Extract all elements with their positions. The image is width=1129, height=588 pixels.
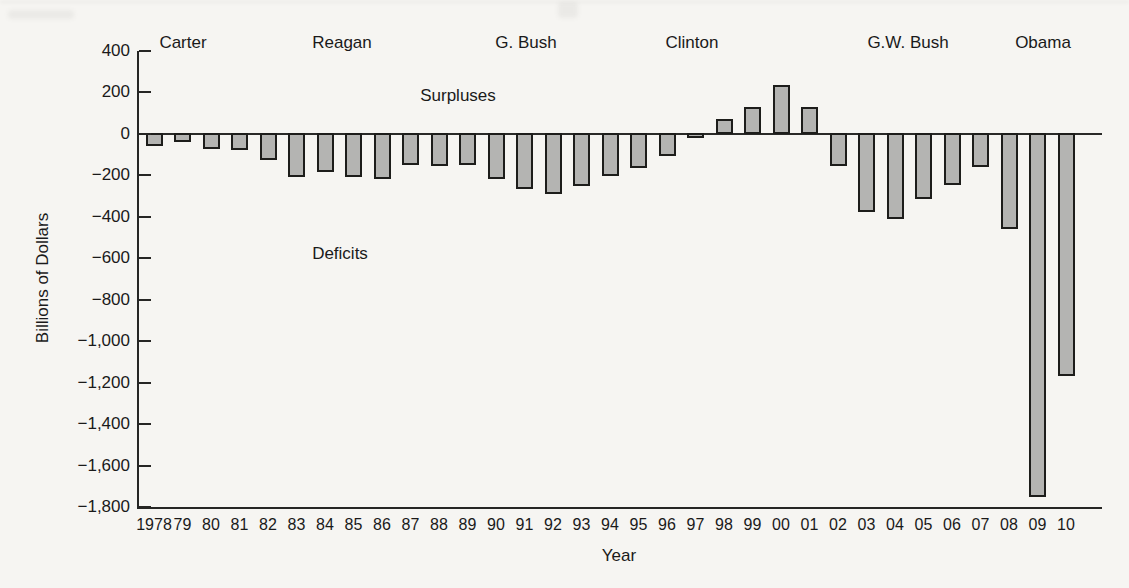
y-tick [139,257,151,259]
y-tick-label: 400 [38,41,130,61]
bar-1982 [260,133,277,161]
bar-1998 [716,119,733,134]
deficits-annotation: Deficits [312,244,368,264]
y-tick-label: −800 [38,290,130,310]
y-tick-label: 0 [38,124,130,144]
y-tick [139,133,151,135]
y-tick-label: −1,600 [38,456,130,476]
bar-chart: Billions of Dollars 4002000−200−400−600−… [0,0,1129,588]
y-tick-label: −1,000 [38,331,130,351]
bar-1990 [488,133,505,180]
y-tick [139,423,151,425]
y-tick-label: 200 [38,82,130,102]
bar-1996 [659,133,676,156]
bar-1986 [374,133,391,180]
bar-1994 [602,133,619,176]
bar-1984 [317,133,334,172]
y-tick [139,50,151,52]
bar-2000 [773,85,790,135]
surpluses-annotation: Surpluses [420,86,496,106]
era-label-carter: Carter [159,33,206,53]
x-tick-label: 10 [1043,516,1089,534]
bar-2006 [944,133,961,185]
bar-1981 [231,133,248,150]
bar-1995 [630,133,647,168]
y-tick [139,91,151,93]
y-tick [139,340,151,342]
bar-2009 [1029,133,1046,498]
bar-2003 [858,133,875,212]
bar-1992 [545,133,562,194]
y-tick [139,465,151,467]
y-tick-label: −400 [38,207,130,227]
y-tick-label: −1,400 [38,414,130,434]
y-axis-title: Billions of Dollars [33,213,53,343]
era-label-g-bush: G. Bush [495,33,556,53]
bar-2002 [830,133,847,167]
scan-artifact [0,0,1129,4]
bar-1997 [687,133,704,139]
era-label-reagan: Reagan [312,33,372,53]
bar-2005 [915,133,932,200]
y-tick-label: −1,200 [38,373,130,393]
bar-1993 [573,133,590,187]
bar-2007 [972,133,989,167]
bar-1985 [345,133,362,178]
bar-1999 [744,107,761,134]
y-tick [139,174,151,176]
bar-2001 [801,107,818,135]
y-axis-line [137,51,139,510]
scanned-budget-deficit-chart: Billions of Dollars 4002000−200−400−600−… [0,0,1129,588]
scan-artifact [558,2,578,18]
bar-1991 [516,133,533,190]
scan-artifact [8,10,74,19]
era-label-clinton: Clinton [666,33,719,53]
y-tick [139,299,151,301]
y-tick [139,506,151,508]
y-tick [139,216,151,218]
bar-2004 [887,133,904,220]
bar-1987 [402,133,419,165]
y-tick-label: −600 [38,248,130,268]
x-axis-title: Year [602,546,636,566]
bar-2010 [1058,133,1075,377]
bar-2008 [1001,133,1018,229]
bar-1983 [288,133,305,177]
bar-1980 [203,133,220,149]
x-axis-line [137,507,1102,509]
y-tick [139,382,151,384]
y-tick-label: −200 [38,165,130,185]
bar-1979 [174,133,191,143]
bar-1989 [459,133,476,166]
y-tick-label: −1,800 [38,497,130,517]
bar-1988 [431,133,448,166]
era-label-obama: Obama [1015,33,1071,53]
era-label-g-w-bush: G.W. Bush [867,33,948,53]
